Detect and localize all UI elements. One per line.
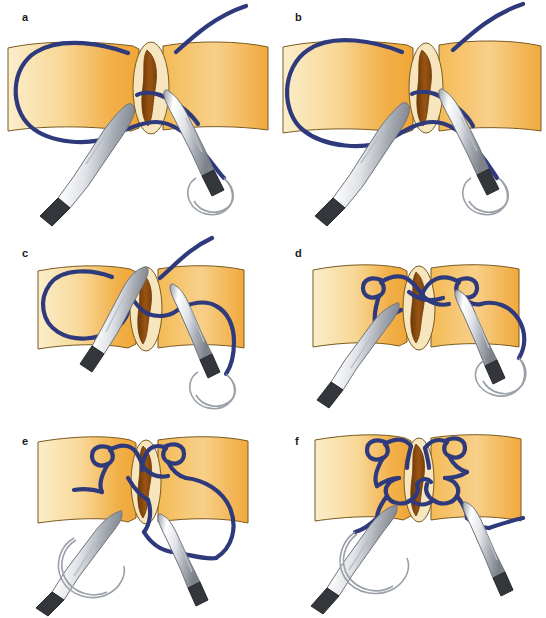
panel-f: f (273, 420, 546, 618)
panel-f-illustration (273, 420, 546, 618)
panel-d-illustration (273, 230, 546, 425)
panel-e-illustration (0, 420, 273, 618)
instrument-left (36, 511, 122, 616)
panel-a: a (0, 0, 273, 230)
tissue-right (158, 437, 248, 523)
panel-e: e (0, 420, 273, 618)
panel-b-illustration (273, 0, 546, 230)
instrument-right (158, 514, 208, 606)
panel-c-illustration (0, 230, 273, 425)
tissue-defect (409, 43, 443, 133)
panel-a-illustration (0, 0, 273, 230)
surgical-needle (190, 372, 236, 409)
panel-b: b (273, 0, 546, 230)
instrument-left (311, 505, 397, 614)
panel-c: c (0, 230, 273, 425)
tissue-left (38, 437, 136, 523)
panel-d: d (273, 230, 546, 425)
surgical-knot-figure: a (0, 0, 546, 618)
